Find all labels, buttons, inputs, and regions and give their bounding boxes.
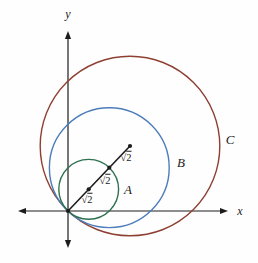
diagram-svg (0, 0, 258, 263)
y-axis-down-arrow-icon (65, 240, 71, 248)
center-point-3 (128, 144, 132, 148)
x-axis-right-arrow-icon (220, 208, 228, 214)
x-axis-left-arrow-icon (18, 208, 26, 214)
y-axis-up-arrow-icon (65, 31, 71, 39)
center-point-1 (87, 187, 91, 191)
center-point-2 (107, 166, 111, 170)
origin-point (66, 209, 70, 213)
tangent-circles-diagram: yxABC√2√2√2 (0, 0, 258, 263)
radius-line (68, 146, 130, 211)
